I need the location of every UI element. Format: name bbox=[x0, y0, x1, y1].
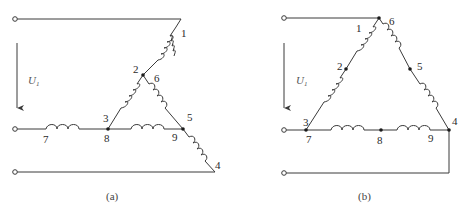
label-a-6: 6 bbox=[154, 72, 160, 84]
label-b-voltage: U1 bbox=[296, 74, 307, 88]
circuit-figure: U1 1 2 3 4 5 6 7 8 9 (a) bbox=[0, 0, 464, 213]
label-a-3: 3 bbox=[103, 112, 109, 124]
node-b-4-9 bbox=[447, 128, 451, 132]
label-b-2: 2 bbox=[337, 60, 343, 72]
terminal-b-top bbox=[282, 16, 287, 21]
coil-b-8-9 bbox=[397, 126, 430, 131]
coil-a-9-4 bbox=[189, 136, 207, 161]
coil-a-1-2 bbox=[170, 27, 176, 56]
label-a-8: 8 bbox=[104, 132, 110, 144]
coil-b-2-3 bbox=[324, 78, 343, 102]
label-b-4: 4 bbox=[452, 115, 458, 127]
node-a-5-9 bbox=[181, 127, 185, 131]
label-a-1: 1 bbox=[181, 27, 187, 39]
coil-a-7 bbox=[46, 125, 79, 130]
label-b-3: 3 bbox=[303, 116, 309, 128]
coil-a-6-5 bbox=[149, 83, 167, 108]
label-a-9: 9 bbox=[172, 131, 178, 143]
node-b-8 bbox=[379, 128, 383, 132]
wire-b-coil-2 bbox=[346, 51, 357, 69]
terminal-a-middle bbox=[13, 127, 18, 132]
caption-b: (b) bbox=[358, 190, 371, 203]
node-b-5 bbox=[408, 67, 412, 71]
label-b-9: 9 bbox=[428, 132, 434, 144]
node-b-2 bbox=[344, 67, 348, 71]
coil-b-7-8 bbox=[331, 126, 364, 131]
wire-a-coil-4 bbox=[205, 161, 215, 172]
diagram-b: U1 1 2 3 4 5 6 7 8 9 (b) bbox=[282, 15, 458, 203]
wire-a-top bbox=[17, 19, 181, 27]
caption-a: (a) bbox=[106, 190, 119, 203]
coil-a-8-9 bbox=[131, 125, 164, 130]
node-b-3-7 bbox=[304, 128, 308, 132]
label-b-5: 5 bbox=[417, 60, 423, 72]
label-a-4: 4 bbox=[215, 159, 221, 171]
terminal-a-bottom bbox=[13, 170, 18, 175]
terminal-a-top bbox=[13, 17, 18, 22]
label-a-voltage: U1 bbox=[28, 74, 39, 88]
coil-b-5-4 bbox=[420, 83, 438, 108]
wire-a-3-8 bbox=[108, 108, 121, 129]
diagram-a: U1 1 2 3 4 5 6 7 8 9 (a) bbox=[13, 17, 221, 203]
node-a-2-6 bbox=[141, 73, 145, 77]
terminal-b-middle bbox=[282, 128, 287, 133]
label-b-1: 1 bbox=[356, 22, 362, 34]
wire-a-5-9 bbox=[165, 108, 183, 129]
label-a-5: 5 bbox=[187, 111, 193, 123]
coil-a-2-3 bbox=[121, 84, 140, 108]
node-a-3-8 bbox=[106, 127, 110, 131]
wire-b-3-7 bbox=[306, 102, 324, 130]
terminal-b-bottom bbox=[282, 171, 287, 176]
label-b-7: 7 bbox=[306, 133, 312, 145]
wire-b-coil-4 bbox=[436, 108, 449, 130]
node-b-1-6 bbox=[377, 16, 381, 20]
label-b-6: 6 bbox=[389, 15, 395, 27]
label-a-7: 7 bbox=[43, 133, 49, 145]
label-b-8: 8 bbox=[377, 134, 383, 146]
wire-b-coil-5 bbox=[399, 48, 410, 69]
label-a-2: 2 bbox=[133, 63, 139, 75]
coil-a-1-2-turns bbox=[158, 36, 173, 60]
